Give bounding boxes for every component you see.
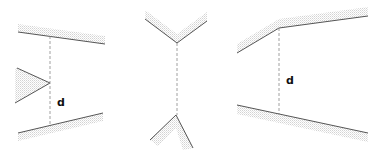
panel-3: d — [237, 7, 368, 142]
panel-2 — [145, 10, 207, 150]
panel-1: d — [15, 24, 105, 141]
distance-label: d — [286, 74, 294, 87]
diagram-svg: d d — [0, 0, 385, 158]
diagram-canvas: d d — [0, 0, 385, 158]
distance-label: d — [57, 96, 65, 109]
